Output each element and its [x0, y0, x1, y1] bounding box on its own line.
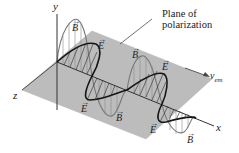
callout-line-2: polarization	[162, 19, 212, 30]
b-vector-label: →B	[132, 50, 138, 60]
b-vector-label: →B	[72, 23, 78, 33]
e-vector-label: →E	[150, 125, 156, 135]
e-vector-label: →E	[162, 62, 168, 72]
e-vector-label: →E	[98, 41, 104, 51]
em-wave-diagram: y x z Plane of polarization vem →B →E →B…	[0, 0, 239, 153]
y-axis-label: y	[53, 1, 58, 12]
x-axis-label: x	[216, 122, 221, 133]
plane-of-polarization-label: Plane of polarization	[162, 8, 212, 30]
callout-line-1: Plane of	[162, 8, 212, 19]
b-vector-label: →B	[187, 135, 193, 145]
e-vector-label: →E	[81, 104, 87, 114]
b-vector-label: →B	[116, 113, 122, 123]
velocity-label: vem	[210, 71, 223, 84]
velocity-subscript: em	[214, 76, 222, 84]
z-axis-label: z	[13, 90, 17, 101]
callout-leader-line	[120, 19, 152, 44]
